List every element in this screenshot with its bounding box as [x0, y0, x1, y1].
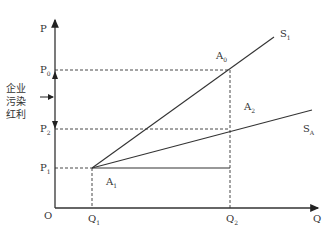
q2-label: Q2 — [226, 214, 238, 226]
origin-label: O — [44, 211, 52, 221]
pollution-dividend-label: 企业 污染 红利 — [6, 82, 26, 121]
sa-label: SA — [303, 124, 314, 136]
arrow-up-icon — [52, 71, 58, 79]
p0-label: P0 — [40, 65, 51, 77]
p1-label: P1 — [40, 163, 51, 175]
annotation-arrow-head — [48, 94, 54, 100]
y-axis-label: P — [40, 24, 47, 34]
q1-label: Q1 — [88, 214, 100, 226]
x-axis-label: Q — [313, 214, 321, 224]
p2-label: P2 — [40, 124, 51, 136]
a2-label: A2 — [244, 102, 255, 114]
s1-label: S1 — [280, 29, 291, 41]
a0-label: A0 — [216, 51, 227, 63]
sa-curve — [92, 110, 312, 168]
arrow-down-icon — [52, 121, 58, 129]
a1-label: A1 — [106, 177, 117, 189]
